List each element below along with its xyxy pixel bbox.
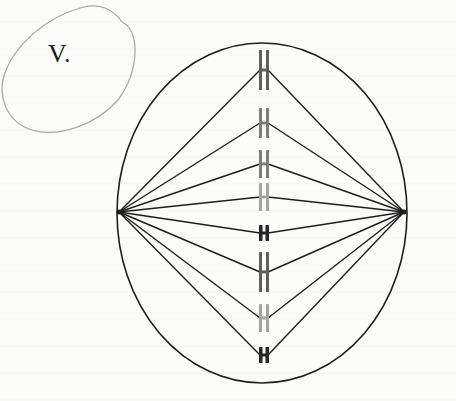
spindle-fiber [268,70,404,212]
spindle-fiber [119,212,260,318]
spindle-fiber [119,212,260,233]
cell-membrane [117,43,407,383]
chromosome [259,304,269,332]
chromosome [259,183,269,211]
right-pole [402,210,407,215]
spindle-fiber [268,212,404,233]
spindle-fiber [268,212,404,355]
spindle-fiber [119,212,260,272]
left-pole [117,210,122,215]
chromosome [259,252,269,292]
spindle-fiber [268,212,404,318]
spindle-fiber [119,70,260,212]
chromosomes [259,50,269,363]
spindle-fiber [119,212,260,355]
annotation-oval [2,6,135,132]
chromosome [259,50,269,90]
chromosome [259,225,269,241]
chromosome [259,150,269,178]
chromosome [259,108,269,138]
figure-label: V. [48,39,71,69]
spindle-fiber [268,212,404,272]
cell [117,43,407,383]
chromosome [259,347,269,363]
